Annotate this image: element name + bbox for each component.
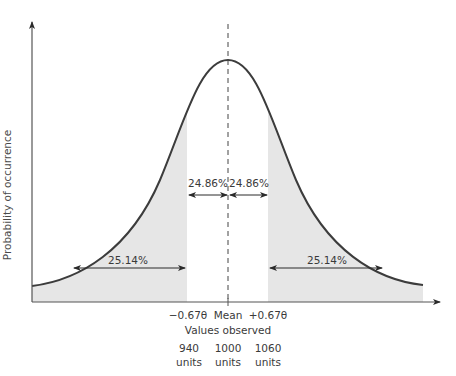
y-axis-label: Probability of occurrence <box>1 130 13 261</box>
units-word-mean: units <box>215 356 241 368</box>
x-axis-label: Values observed <box>185 324 271 336</box>
pct-right-center: 24.86% <box>229 177 269 189</box>
tick-mean: Mean <box>214 309 243 321</box>
units-minus: 940 <box>179 342 199 354</box>
pct-right-tail: 25.14% <box>307 254 347 266</box>
units-word-plus: units <box>255 356 281 368</box>
units-mean: 1000 <box>215 342 242 354</box>
units-word-minus: units <box>176 356 202 368</box>
tick-minus-sigma: −0.67θ <box>169 309 208 321</box>
pct-left-center: 24.86% <box>188 177 228 189</box>
units-plus: 1060 <box>255 342 282 354</box>
pct-left-tail: 25.14% <box>108 254 148 266</box>
tick-plus-sigma: +0.67θ <box>249 309 288 321</box>
